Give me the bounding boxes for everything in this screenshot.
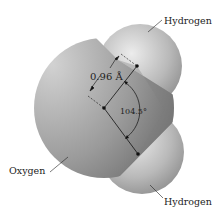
hydrogen-top-label: Hydrogen	[164, 15, 212, 26]
bond-length-label: 0.96 Å	[90, 71, 123, 82]
water-molecule-diagram: 0.96 Å 104.5° Hydrogen Oxygen Hydrogen	[0, 0, 222, 213]
oxygen-label: Oxygen	[9, 165, 45, 176]
hydrogen-bottom-nucleus-dot	[136, 152, 140, 156]
bond-angle-label: 104.5°	[120, 107, 147, 116]
hydrogen-bottom-label: Hydrogen	[164, 196, 212, 207]
